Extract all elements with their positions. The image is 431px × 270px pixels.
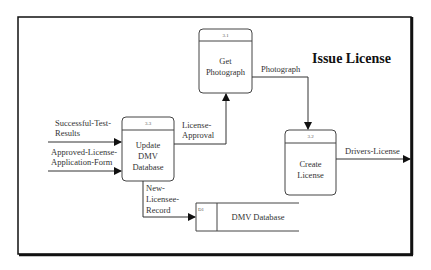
flow-label-line: Licensee-: [146, 194, 179, 204]
process-update-dmv-database[interactable]: 3.3 Update DMV Database: [122, 117, 174, 181]
flow-label-line: Approved-License-: [51, 147, 117, 157]
dfd-svg: Issue License 3.1 Get Photograph 3.3 Upd…: [0, 0, 431, 270]
data-store-id: D1: [198, 207, 205, 212]
flow-label-line: Successful-Test-: [55, 118, 111, 128]
process-name-line: License: [297, 170, 324, 180]
flow-label-line: Approval: [182, 130, 215, 140]
process-name-line: Create: [299, 159, 321, 169]
flow-label-line: Drivers-License: [345, 146, 400, 156]
process-name-line: Database: [132, 162, 163, 172]
process-get-photograph[interactable]: 3.1 Get Photograph: [199, 29, 252, 93]
flow-label-line: Photograph: [261, 64, 301, 74]
flow-label-line: Application-Form: [51, 157, 113, 167]
flow-label-line: License-: [182, 120, 211, 130]
process-id: 3.3: [145, 121, 152, 126]
process-id: 3.1: [222, 33, 229, 38]
process-name-line: Get: [219, 56, 232, 66]
process-name-line: Photograph: [206, 67, 246, 77]
process-name-line: DMV: [138, 151, 159, 161]
diagram-title: Issue License: [312, 51, 391, 66]
process-id: 3.2: [307, 134, 314, 139]
flow-label-line: Record: [146, 205, 171, 215]
dfd-canvas: Issue License 3.1 Get Photograph 3.3 Upd…: [0, 0, 431, 270]
data-store-name: DMV Database: [232, 212, 285, 222]
process-create-license[interactable]: 3.2 Create License: [285, 130, 336, 195]
flow-label-line: Results: [55, 128, 80, 138]
flow-label-line: New-: [146, 183, 165, 193]
process-name-line: Update: [136, 140, 161, 150]
